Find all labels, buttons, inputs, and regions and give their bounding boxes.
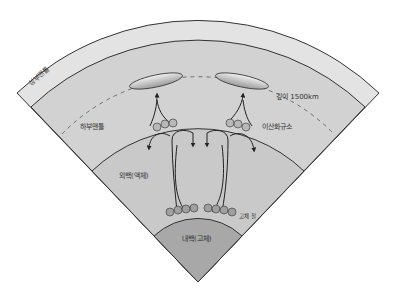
label-outer-core: 외핵(액체) [119,173,148,180]
label-solid-iron: 고체 철 [239,214,256,220]
earth-cross-section-diagram [0,0,402,296]
label-silicon-dioxide: 이산화규소 [262,124,292,131]
label-depth-1500km: 깊이 1500km [276,94,319,101]
inner-core-layer [154,218,242,282]
label-lower-mantle: 하부맨틀 [80,124,104,131]
label-inner-core: 내핵(고체) [182,236,211,243]
